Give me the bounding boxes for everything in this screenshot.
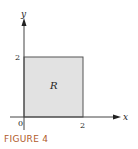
x-axis-label: x — [123, 112, 128, 122]
y-axis-label: y — [20, 9, 27, 19]
region-diagram: y x 2 0 2 R — [0, 0, 138, 149]
x-axis-arrow-icon — [113, 115, 121, 120]
origin-label: 0 — [18, 119, 23, 128]
y-tick-label: 2 — [15, 53, 20, 62]
y-axis-arrow-icon — [22, 18, 27, 26]
x-tick-label: 2 — [80, 121, 85, 130]
figure-caption: FIGURE 4 — [4, 134, 48, 144]
region-label: R — [49, 80, 58, 91]
